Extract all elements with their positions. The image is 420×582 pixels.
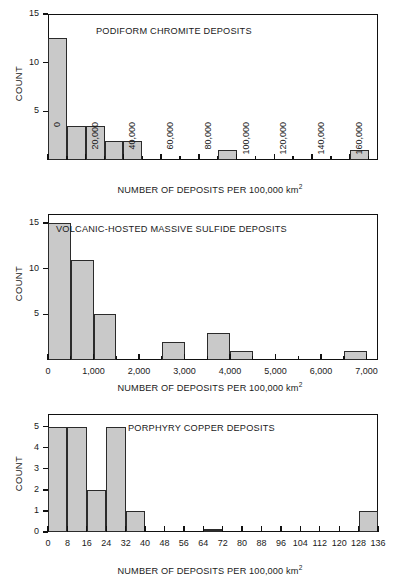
histogram-bar [126,511,145,532]
x-tick-mark [280,526,281,532]
y-tick-mark [43,222,48,223]
x-tick-label: 20,000 [90,122,100,166]
x-tick-mark [125,526,126,532]
x-tick-label: 80 [237,538,247,548]
x-tick-mark [207,356,208,360]
x-tick-label: 3,000 [173,366,196,376]
y-tick-label: 3 [8,463,39,473]
x-tick-mark [144,526,145,532]
x-tick-mark [311,154,312,160]
histogram-bar [67,126,86,160]
histogram-bar [48,223,71,360]
x-tick-mark [47,154,48,160]
x-tick-label: 6,000 [310,366,333,376]
x-tick-mark [160,154,161,160]
x-tick-mark [300,526,301,532]
x-axis-caption-text-2: NUMBER OF DEPOSITS PER 100,000 km [118,383,299,393]
y-tick-mark [43,489,48,490]
x-tick-label: 32 [121,538,131,548]
x-tick-mark [183,526,184,532]
y-tick-label: 5 [8,421,39,431]
x-tick-mark [142,156,143,160]
x-tick-mark [343,356,344,360]
y-tick-mark [43,268,48,269]
y-tick-mark [43,447,48,448]
y-tick-mark [43,13,48,14]
y-tick-mark [43,426,48,427]
y-tick-label: 1 [8,505,39,515]
x-tick-label: 5,000 [264,366,287,376]
histogram-bar [71,260,94,360]
x-tick-mark [203,526,204,532]
x-tick-label: 100,000 [241,122,251,166]
x-tick-label: 140,000 [316,122,326,166]
x-tick-mark [236,154,237,160]
histogram-bar [218,150,237,160]
y-tick-label: 10 [8,263,39,273]
x-tick-label: 2,000 [128,366,151,376]
histogram-bar [106,427,125,532]
x-tick-mark [275,354,276,360]
x-tick-mark [368,156,369,160]
histogram-bar [344,351,367,360]
x-axis-caption-1: NUMBER OF DEPOSITS PER 100,000 km2 [0,183,420,195]
histogram-bar [67,427,86,532]
y-tick-label: 15 [8,8,39,18]
x-tick-mark [138,354,139,360]
chart-panel-volcanic-hosted-massive-sulfide: COUNT 51015 01,0002,0003,0004,0005,0006,… [0,200,420,400]
histogram-bar [105,141,124,160]
x-tick-label: 7,000 [355,366,378,376]
x-tick-mark [320,354,321,360]
x-tick-mark [93,354,94,360]
x-tick-label: 24 [101,538,111,548]
y-tick-mark [43,62,48,63]
y-tick-label: 5 [8,105,39,115]
x-tick-mark [339,526,340,532]
histogram-bar [359,511,378,532]
x-tick-mark [366,354,367,360]
x-axis-caption-sup-3: 2 [299,564,303,571]
x-tick-label: 1,000 [82,366,105,376]
x-axis-caption-2: NUMBER OF DEPOSITS PER 100,000 km2 [0,381,420,393]
x-tick-mark [319,526,320,532]
histogram-bar [48,427,67,532]
x-tick-label: 120,000 [278,122,288,166]
x-tick-mark [86,526,87,532]
x-tick-label: 72 [218,538,228,548]
x-axis-caption-text-1: NUMBER OF DEPOSITS PER 100,000 km [118,185,299,195]
x-tick-label: 8 [65,538,70,548]
chart-panel-podiform-chromite: COUNT 51015 020,00040,00060,00080,000100… [0,0,420,200]
x-tick-label: 0 [45,366,50,376]
x-tick-label: 88 [257,538,267,548]
x-tick-mark [184,354,185,360]
y-tick-mark [43,314,48,315]
x-tick-label: 112 [313,538,327,548]
x-tick-mark [255,156,256,160]
x-tick-mark [252,356,253,360]
x-tick-mark [377,526,378,532]
chart-title-3: PORPHYRY COPPER DEPOSITS [128,423,275,433]
x-tick-label: 96 [276,538,286,548]
x-tick-mark [164,526,165,532]
y-tick-label: 0 [8,526,39,536]
x-tick-label: 60,000 [165,122,175,166]
y-axis-label-3: COUNT [13,444,24,504]
y-tick-label: 15 [8,217,39,227]
y-tick-mark [43,111,48,112]
x-tick-label: 48 [159,538,169,548]
x-tick-mark [198,154,199,160]
y-tick-label: 2 [8,484,39,494]
y-tick-label: 10 [8,57,39,67]
x-tick-mark [274,154,275,160]
chart-title-1: PODIFORM CHROMITE DEPOSITS [96,26,252,36]
x-tick-label: 16 [82,538,92,548]
x-axis-caption-3: NUMBER OF DEPOSITS PER 100,000 km2 [0,564,420,576]
y-tick-mark [43,510,48,511]
y-tick-label: 4 [8,442,39,452]
x-tick-mark [217,156,218,160]
x-tick-label: 56 [179,538,189,548]
x-tick-label: 80,000 [203,122,213,166]
histogram-bar [207,333,230,360]
x-tick-label: 136 [370,538,385,548]
chart-panel-porphyry-copper: COUNT 012345 081624324048566472808896104… [0,400,420,582]
